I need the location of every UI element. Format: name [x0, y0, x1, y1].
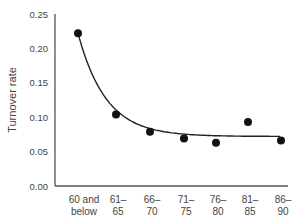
x-tick-label: 60 andbelow [69, 194, 100, 217]
data-point [146, 128, 154, 136]
x-tick-label: 61–65 [110, 194, 127, 217]
data-point [180, 135, 188, 143]
y-tick-label: 0.20 [30, 43, 49, 54]
y-tick-label: 0.05 [30, 146, 49, 157]
y-tick-label: 0.00 [30, 181, 49, 192]
y-tick-label: 0.15 [30, 77, 49, 88]
data-point [212, 139, 220, 147]
y-tick-label: 0.10 [30, 112, 49, 123]
chart: 0.000.050.100.150.200.25Turnover rate60 … [0, 0, 294, 222]
x-tick-label: 76–80 [210, 194, 227, 217]
data-point [277, 137, 285, 145]
x-tick-label: 66–70 [144, 194, 161, 217]
x-tick-label: 86–90 [275, 194, 292, 217]
data-point [112, 110, 120, 118]
data-point [74, 29, 82, 37]
y-tick-label: 0.25 [30, 9, 49, 20]
y-axis-label: Turnover rate [6, 67, 18, 133]
data-point [244, 118, 252, 126]
x-tick-label: 71–75 [178, 194, 195, 217]
x-tick-label: 81–85 [242, 194, 259, 217]
